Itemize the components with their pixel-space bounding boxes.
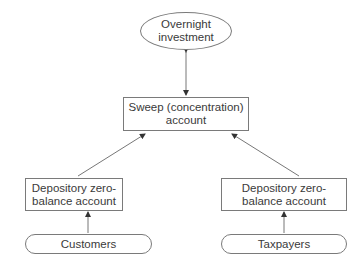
sweep-account-label: Sweep (concentration) account bbox=[127, 101, 245, 127]
depository-zba-left-label: Depository zero-balance account bbox=[29, 182, 119, 208]
depository-zba-left-node: Depository zero-balance account bbox=[25, 178, 123, 211]
depository-zba-right-label: Depository zero-balance account bbox=[239, 182, 329, 208]
depository-zba-right-node: Depository zero-balance account bbox=[221, 178, 347, 211]
sweep-account-node: Sweep (concentration) account bbox=[123, 97, 249, 131]
taxpayers-label: Taxpayers bbox=[258, 238, 310, 251]
edge-right-sweep bbox=[232, 134, 299, 176]
overnight-investment-label: Overnight investment bbox=[151, 18, 221, 44]
taxpayers-node: Taxpayers bbox=[221, 234, 347, 254]
customers-node: Customers bbox=[25, 234, 152, 254]
edge-left-sweep bbox=[78, 134, 145, 176]
overnight-investment-node: Overnight investment bbox=[140, 12, 232, 50]
customers-label: Customers bbox=[61, 238, 117, 251]
